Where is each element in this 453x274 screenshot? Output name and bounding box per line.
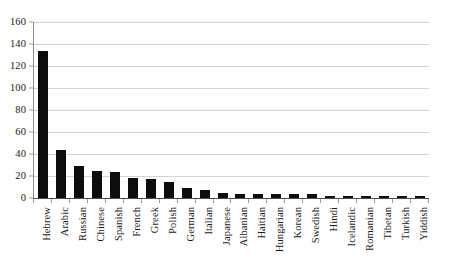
bar[interactable] xyxy=(289,194,299,198)
x-axis-tick-mark xyxy=(123,199,124,203)
x-axis-label-slot: Hebrew xyxy=(33,205,51,274)
bar-slot[interactable] xyxy=(196,22,214,198)
bar-slot[interactable] xyxy=(357,22,375,198)
bar-slot[interactable] xyxy=(339,22,357,198)
x-axis-tick-mark-slot xyxy=(51,199,69,203)
x-axis-tick-mark-slot xyxy=(374,199,392,203)
x-axis-tick-mark xyxy=(374,199,375,203)
bar[interactable] xyxy=(271,194,281,198)
bar[interactable] xyxy=(307,194,317,198)
bar-slot[interactable] xyxy=(124,22,142,198)
bar-slot[interactable] xyxy=(267,22,285,198)
bar[interactable] xyxy=(325,196,335,198)
x-axis-tick-mark xyxy=(195,199,196,203)
x-axis-tick-mark xyxy=(320,199,321,203)
x-axis-label-slot: Albanian xyxy=(230,205,248,274)
x-axis-label-slot: Haitian xyxy=(248,205,266,274)
x-axis-label-slot: Swedish xyxy=(302,205,320,274)
x-axis-tick-mark-slot xyxy=(141,199,159,203)
x-axis-tick-mark xyxy=(248,199,249,203)
x-axis-label-slot: Italian xyxy=(195,205,213,274)
bar[interactable] xyxy=(182,188,192,198)
bar[interactable] xyxy=(379,196,389,198)
x-axis-tick-mark-slot xyxy=(410,199,428,203)
bar[interactable] xyxy=(415,196,425,198)
bar[interactable] xyxy=(218,193,228,199)
plot-area xyxy=(33,22,429,199)
bar-slot[interactable] xyxy=(160,22,178,198)
x-axis-label-slot: Japanese xyxy=(213,205,231,274)
bar-slot[interactable] xyxy=(393,22,411,198)
bar-slot[interactable] xyxy=(231,22,249,198)
bar[interactable] xyxy=(92,171,102,199)
bar-slot[interactable] xyxy=(52,22,70,198)
y-axis-tick-label: 80 xyxy=(15,105,26,116)
x-axis-label-slot: Turkish xyxy=(392,205,410,274)
bar-slot[interactable] xyxy=(106,22,124,198)
x-axis-tick-mark xyxy=(428,199,429,203)
bar-slot[interactable] xyxy=(142,22,160,198)
x-axis-label-slot: Polish xyxy=(159,205,177,274)
x-axis-tick-mark xyxy=(105,199,106,203)
bar-slot[interactable] xyxy=(375,22,393,198)
bar[interactable] xyxy=(56,150,66,198)
x-axis-tick-mark-slot xyxy=(320,199,338,203)
bar-slot[interactable] xyxy=(303,22,321,198)
bar-slot[interactable] xyxy=(70,22,88,198)
bar-slot[interactable] xyxy=(34,22,52,198)
bar[interactable] xyxy=(343,196,353,198)
x-axis-tick-mark-slot xyxy=(284,199,302,203)
y-axis: 020406080100120140160 xyxy=(0,0,30,274)
x-axis-tick-mark-slot xyxy=(392,199,410,203)
x-axis-ticks xyxy=(33,199,428,203)
x-axis-tick-mark-slot xyxy=(302,199,320,203)
bar[interactable] xyxy=(361,196,371,198)
x-axis-tick-mark-slot xyxy=(105,199,123,203)
bar-slot[interactable] xyxy=(321,22,339,198)
x-axis-tick-mark-slot xyxy=(213,199,231,203)
x-axis-label-slot: French xyxy=(123,205,141,274)
bar-slot[interactable] xyxy=(214,22,232,198)
bar-slot[interactable] xyxy=(249,22,267,198)
x-axis-tick-mark xyxy=(410,199,411,203)
x-axis-label-slot: Spanish xyxy=(105,205,123,274)
x-axis-tick-mark-slot xyxy=(230,199,248,203)
x-axis-label-slot: Hindi xyxy=(320,205,338,274)
x-axis-tick-mark-slot xyxy=(266,199,284,203)
bar[interactable] xyxy=(38,51,48,198)
x-axis-tick-mark xyxy=(51,199,52,203)
bar[interactable] xyxy=(253,194,263,198)
bar[interactable] xyxy=(164,182,174,199)
x-axis-tick-mark xyxy=(33,199,34,203)
x-axis-tick-mark xyxy=(392,199,393,203)
x-axis-label-slot: Greek xyxy=(141,205,159,274)
x-axis-label-slot: Russian xyxy=(69,205,87,274)
x-axis-label-slot: Tibetan xyxy=(374,205,392,274)
bar[interactable] xyxy=(200,190,210,198)
bar[interactable] xyxy=(397,196,407,198)
bar-slot[interactable] xyxy=(88,22,106,198)
y-axis-tick-label: 40 xyxy=(15,149,26,160)
bar-slot[interactable] xyxy=(178,22,196,198)
x-axis-label-slot: Hungarian xyxy=(266,205,284,274)
y-axis-tick-label: 0 xyxy=(21,193,26,204)
bar[interactable] xyxy=(146,179,156,198)
y-axis-tick-label: 140 xyxy=(10,39,26,50)
x-axis-label-slot: German xyxy=(177,205,195,274)
x-axis-label-slot: Arabic xyxy=(51,205,69,274)
bars-layer xyxy=(34,22,429,198)
bar-slot[interactable] xyxy=(285,22,303,198)
x-axis-label-slot: Icelandic xyxy=(338,205,356,274)
bar[interactable] xyxy=(128,178,138,198)
bar[interactable] xyxy=(110,172,120,198)
y-axis-tick-label: 60 xyxy=(15,127,26,138)
bar-slot[interactable] xyxy=(411,22,429,198)
x-axis-tick-mark xyxy=(302,199,303,203)
bar[interactable] xyxy=(235,194,245,198)
x-axis-tick-mark xyxy=(69,199,70,203)
bar[interactable] xyxy=(74,166,84,198)
x-axis-tick-mark xyxy=(87,199,88,203)
x-axis-tick-mark-slot xyxy=(195,199,213,203)
x-axis-tick-mark-slot xyxy=(87,199,105,203)
x-axis-tick-mark xyxy=(266,199,267,203)
